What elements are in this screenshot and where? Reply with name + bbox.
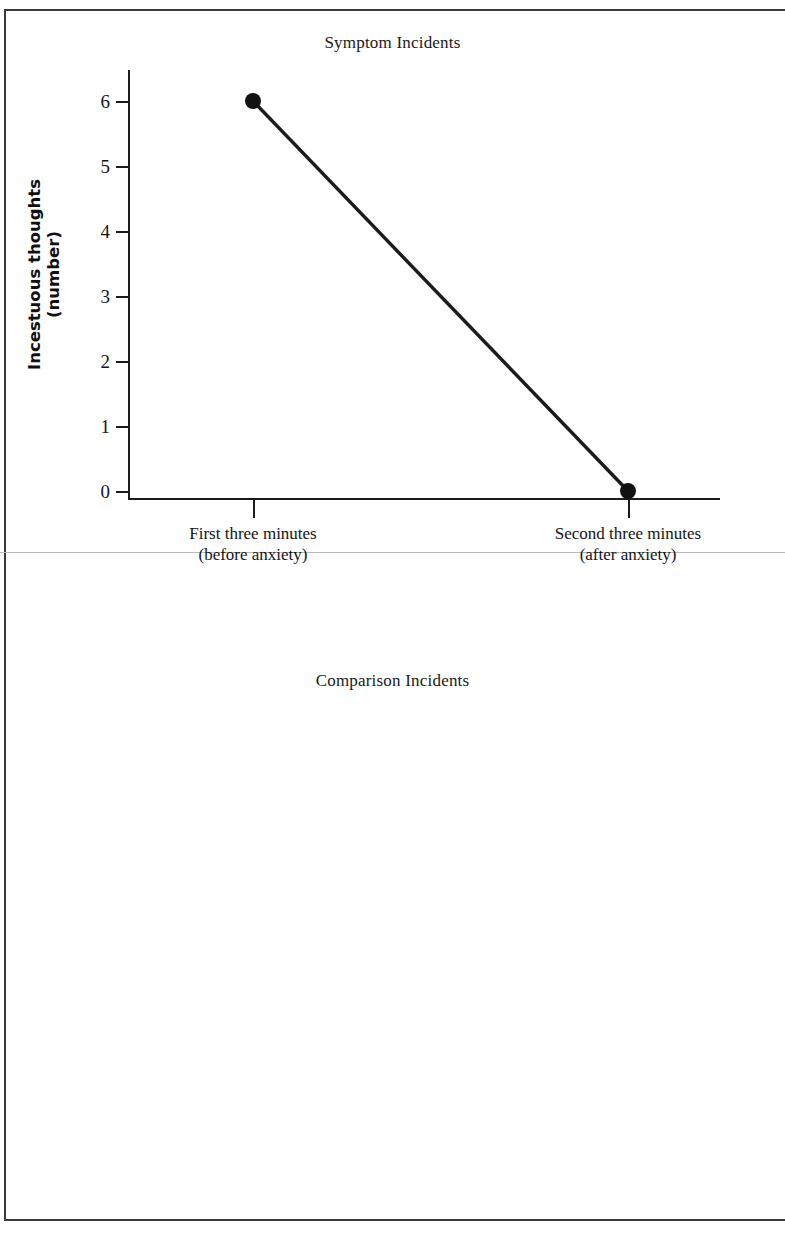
series-segment — [253, 101, 628, 491]
y-tick-4 — [116, 231, 128, 233]
data-point-second — [620, 483, 636, 499]
plot-area-symptom: 6 5 4 3 2 1 0 First three minutes (befor… — [128, 70, 720, 500]
y-tick-3 — [116, 296, 128, 298]
chart-panel-symptom: Symptom Incidents Incestuous thoughts (n… — [0, 0, 785, 600]
figure-page: Symptom Incidents Incestuous thoughts (n… — [0, 0, 785, 1243]
x-tick-first — [253, 500, 255, 518]
y-tick-label-1: 1 — [72, 417, 110, 436]
chart-title-symptom: Symptom Incidents — [0, 33, 785, 53]
chart-title-comparison: Comparison Incidents — [0, 671, 785, 691]
y-tick-2 — [116, 361, 128, 363]
y-tick-1 — [116, 426, 128, 428]
x-tick-label-second-sub: (after anxiety) — [478, 545, 778, 566]
y-tick-5 — [116, 166, 128, 168]
y-tick-label-4: 4 — [72, 222, 110, 241]
y-tick-label-5: 5 — [72, 157, 110, 176]
x-tick-label-first-sub: (before anxiety) — [103, 545, 403, 566]
y-tick-label-6: 6 — [72, 92, 110, 111]
y-tick-label-0: 0 — [72, 482, 110, 501]
chart-panel-comparison: Comparison Incidents Incestuous thoughts… — [0, 640, 785, 1240]
data-point-first — [245, 93, 261, 109]
y-tick-0 — [116, 491, 128, 493]
y-tick-6 — [116, 101, 128, 103]
data-series-symptom — [128, 70, 720, 500]
y-tick-label-3: 3 — [72, 287, 110, 306]
x-tick-label-second: Second three minutes (after anxiety) — [478, 524, 778, 565]
y-tick-label-2: 2 — [72, 352, 110, 371]
x-tick-label-first: First three minutes (before anxiety) — [103, 524, 403, 565]
y-axis-title-sub: (number) — [44, 174, 63, 374]
x-tick-label-first-main: First three minutes — [189, 524, 316, 543]
y-axis-title-symptom: Incestuous thoughts (number) — [25, 174, 64, 374]
x-tick-second — [628, 500, 630, 518]
y-axis-title-main: Incestuous thoughts — [25, 179, 44, 370]
x-tick-label-second-main: Second three minutes — [555, 524, 701, 543]
